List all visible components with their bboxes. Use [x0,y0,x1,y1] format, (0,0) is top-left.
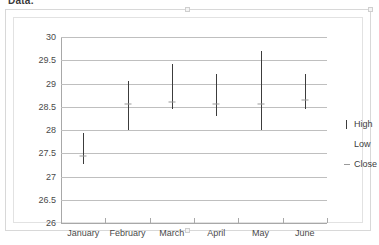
x-axis-tick [194,218,195,223]
gridline [61,223,327,224]
gridline [61,37,327,38]
x-axis-tick-label: May [252,228,269,238]
x-axis-tick-label: March [159,228,184,238]
x-axis-tick [327,218,328,223]
y-axis-tick-label: 30 [46,32,56,42]
plot-wrapper: 2626.52727.52828.52929.530 JanuaryFebrua… [61,37,327,223]
chart-legend[interactable]: HighLowClose [342,114,379,174]
caption-strip: Data: [0,0,379,7]
x-axis-tick-label: January [67,228,99,238]
y-axis-tick-label: 28.5 [38,102,56,112]
high-low-bar [216,74,217,116]
chart-canvas[interactable]: 2626.52727.52828.52929.530 JanuaryFebrua… [13,17,363,223]
x-axis-tick [238,218,239,223]
legend-item-label: Close [354,159,377,169]
legend-item-close[interactable]: Close [342,154,379,174]
x-axis-tick [150,218,151,223]
resize-handle-bottom-center[interactable] [185,228,190,233]
blank-marker [342,140,351,149]
close-marker [301,99,308,100]
high-low-bar [261,51,262,130]
y-axis-tick-label: 29 [46,79,56,89]
close-marker [124,104,131,105]
close-marker [80,155,87,156]
gridline [61,177,327,178]
legend-item-low[interactable]: Low [342,134,379,154]
y-axis-tick-label: 27 [46,172,56,182]
gridline [61,200,327,201]
high-low-bar [83,133,84,164]
gridline [61,107,327,108]
y-axis-tick-label: 26 [46,218,56,228]
close-marker [168,102,175,103]
gridline [61,60,327,61]
x-axis-tick [105,218,106,223]
y-axis-tick-label: 27.5 [38,148,56,158]
legend-item-high[interactable]: High [342,114,379,134]
x-axis-tick [283,218,284,223]
close-marker [257,104,264,105]
legend-item-label: Low [354,139,371,149]
y-axis-tick-label: 26.5 [38,195,56,205]
vertical-line-marker [342,120,351,129]
chart-object-frame[interactable]: 2626.52727.52828.52929.530 JanuaryFebrua… [5,9,371,231]
gridline [61,130,327,131]
resize-handle-top-center[interactable] [185,7,190,12]
x-axis-tick-label: April [207,228,225,238]
close-marker [213,104,220,105]
caption-text: Data: [8,0,34,6]
resize-handle-top-right[interactable] [368,7,373,12]
high-low-bar [305,74,306,109]
gridline [61,84,327,85]
legend-item-label: High [354,119,373,129]
gridline [61,153,327,154]
y-axis-tick-label: 28 [46,125,56,135]
x-axis-tick-label: June [295,228,315,238]
y-axis-tick-label: 29.5 [38,55,56,65]
x-axis-tick-label: February [109,228,145,238]
dash-marker [342,160,351,169]
high-low-bar [128,81,129,130]
x-axis-tick [61,218,62,223]
